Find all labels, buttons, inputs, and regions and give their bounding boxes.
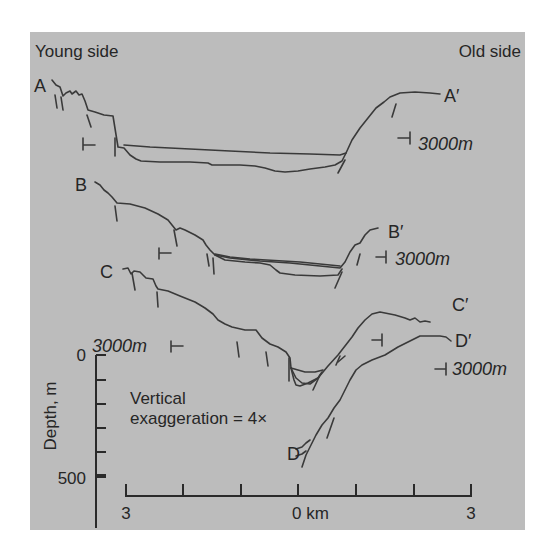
profile-a bbox=[52, 80, 440, 173]
profile-c-end-label: C′ bbox=[452, 295, 469, 315]
profile-d-end-label: D′ bbox=[455, 331, 472, 351]
vertical-exaggeration-line2: exaggeration = 4× bbox=[130, 409, 267, 428]
profile-a-start-label: A bbox=[34, 76, 46, 96]
profile-c-start-label: C bbox=[100, 262, 113, 282]
distance-axis-left-tick: 3 bbox=[121, 504, 130, 523]
profile-d bbox=[296, 336, 451, 467]
profile-d-scale-label: 3000m bbox=[452, 359, 507, 379]
profile-b-end-label: B′ bbox=[388, 222, 404, 242]
young-side-label: Young side bbox=[35, 42, 119, 61]
depth-axis-top-tick: 0 bbox=[77, 346, 86, 365]
profile-a-scale-label: 3000m bbox=[418, 134, 473, 154]
profile-d-start-label: D bbox=[287, 444, 300, 464]
distance-axis-center-tick: 0 km bbox=[292, 504, 329, 523]
cross-section-diagram: Young side Old side A A′ 3000m B B′ 3000… bbox=[0, 0, 552, 553]
profile-d-scale-marker bbox=[435, 363, 446, 375]
depth-axis-label: Depth, m bbox=[41, 382, 60, 451]
depth-axis bbox=[96, 355, 106, 528]
profile-b-start-label: B bbox=[75, 175, 87, 195]
profile-c bbox=[123, 268, 430, 390]
depth-axis-bottom-tick: 500 bbox=[58, 469, 86, 488]
distance-axis-right-tick: 3 bbox=[466, 504, 475, 523]
profile-b-scale-label: 3000m bbox=[395, 249, 450, 269]
distance-axis bbox=[126, 484, 472, 497]
profile-c-scale-label: 3000m bbox=[92, 336, 147, 356]
profile-a-end-label: A′ bbox=[444, 86, 460, 106]
old-side-label: Old side bbox=[459, 42, 521, 61]
vertical-exaggeration-line1: Vertical bbox=[130, 389, 186, 408]
